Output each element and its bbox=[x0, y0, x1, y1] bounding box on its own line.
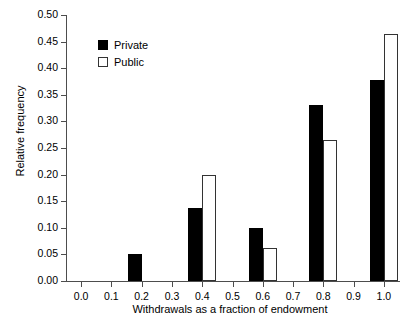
y-tick-label: 0.25 bbox=[38, 141, 58, 154]
bar-public-0.6 bbox=[263, 248, 277, 281]
legend-label: Private bbox=[114, 39, 148, 51]
legend-item-public: Public bbox=[98, 53, 148, 70]
y-tick-label: 0.45 bbox=[38, 35, 58, 48]
bar-public-1.0 bbox=[384, 34, 398, 281]
y-tick: 0.10 bbox=[61, 228, 66, 229]
bar-private-0.8 bbox=[309, 105, 323, 281]
x-tick bbox=[323, 282, 324, 287]
x-tick bbox=[111, 282, 112, 287]
y-tick: 0.15 bbox=[61, 201, 66, 202]
bar-public-0.4 bbox=[202, 175, 216, 281]
x-tick bbox=[172, 282, 173, 287]
y-tick: 0.05 bbox=[61, 254, 66, 255]
legend-item-private: Private bbox=[98, 36, 148, 53]
x-tick-label: 1.0 bbox=[364, 290, 404, 302]
y-tick: 0.45 bbox=[61, 42, 66, 43]
x-tick bbox=[142, 282, 143, 287]
y-tick-label: 0.15 bbox=[38, 194, 58, 207]
y-tick-label: 0.50 bbox=[38, 8, 58, 21]
chart-legend: PrivatePublic bbox=[98, 36, 148, 70]
y-tick: 0.25 bbox=[61, 148, 66, 149]
y-tick-label: 0.35 bbox=[38, 88, 58, 101]
legend-label: Public bbox=[114, 56, 144, 68]
x-tick bbox=[81, 282, 82, 287]
y-tick-label: 0.00 bbox=[38, 274, 58, 287]
y-tick: 0.00 bbox=[61, 281, 66, 282]
y-tick: 0.20 bbox=[61, 175, 66, 176]
y-tick: 0.40 bbox=[61, 68, 66, 69]
y-tick-label: 0.20 bbox=[38, 168, 58, 181]
bar-private-0.6 bbox=[249, 228, 263, 281]
y-tick-label: 0.30 bbox=[38, 114, 58, 127]
x-tick bbox=[354, 282, 355, 287]
bar-private-0.4 bbox=[188, 208, 202, 281]
x-tick bbox=[263, 282, 264, 287]
y-tick-label: 0.10 bbox=[38, 221, 58, 234]
y-tick: 0.30 bbox=[61, 121, 66, 122]
y-axis-line bbox=[66, 15, 67, 282]
x-tick bbox=[233, 282, 234, 287]
x-axis-title: Withdrawals as a fraction of endowment bbox=[60, 303, 400, 315]
bar-public-0.8 bbox=[323, 140, 337, 281]
y-tick: 0.35 bbox=[61, 95, 66, 96]
x-tick bbox=[384, 282, 385, 287]
x-tick bbox=[293, 282, 294, 287]
bar-private-0.2 bbox=[128, 254, 142, 281]
y-axis-title: Relative frequency bbox=[14, 41, 26, 221]
legend-swatch-private-icon bbox=[98, 40, 108, 50]
y-tick-label: 0.40 bbox=[38, 61, 58, 74]
y-tick-label: 0.05 bbox=[38, 247, 58, 260]
y-tick: 0.50 bbox=[61, 15, 66, 16]
legend-swatch-public-icon bbox=[98, 57, 108, 67]
bar-private-1.0 bbox=[370, 80, 384, 281]
x-tick bbox=[202, 282, 203, 287]
chart-figure: Relative frequency Withdrawals as a frac… bbox=[0, 0, 409, 323]
